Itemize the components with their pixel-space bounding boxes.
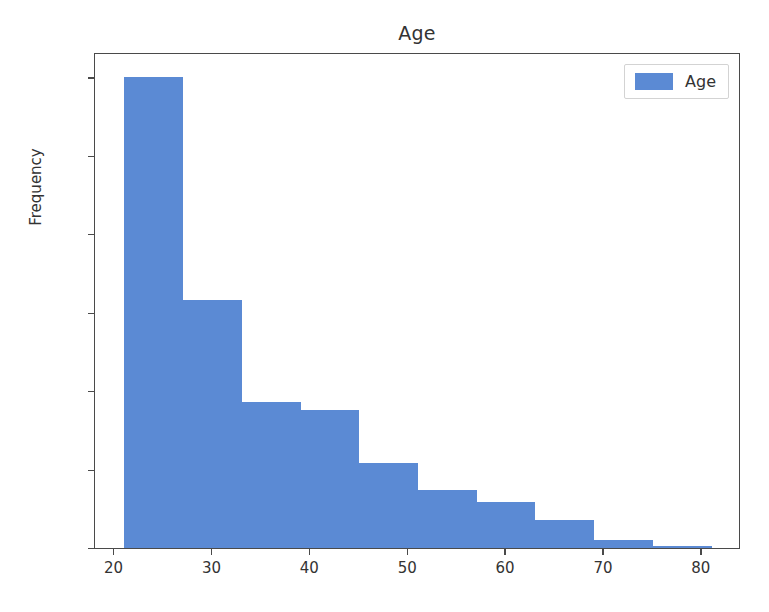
histogram-bar [477,502,536,548]
legend: Age [624,64,729,99]
histogram-bar [594,540,653,548]
histogram-bar [242,402,301,548]
figure-canvas: Age Frequency 050100150200250300 2030405… [0,0,769,612]
x-tick-mark [407,549,408,555]
histogram-bar [183,300,242,548]
x-tick-mark [309,549,310,555]
x-tick-label: 80 [661,559,741,577]
histogram-bars [95,54,739,548]
legend-label-age: Age [685,72,716,91]
y-axis-label: Frequency [27,117,45,257]
histogram-bar [359,463,418,548]
x-tick-label: 60 [465,559,545,577]
legend-swatch-age [635,73,673,90]
histogram-bar [535,520,594,548]
plot-area: Age [94,53,740,549]
x-tick-mark [211,549,212,555]
histogram-bar [301,410,360,548]
histogram-bar [418,490,477,548]
x-tick-mark [504,549,505,555]
x-tick-label: 70 [563,559,643,577]
histogram-bar [653,546,712,548]
x-tick-label: 20 [74,559,154,577]
x-tick-label: 30 [171,559,251,577]
x-tick-mark [602,549,603,555]
x-tick-mark [113,549,114,555]
histogram-bar [124,77,183,548]
x-tick-label: 40 [269,559,349,577]
x-tick-label: 50 [367,559,447,577]
chart-title: Age [94,22,740,44]
x-tick-mark [700,549,701,555]
